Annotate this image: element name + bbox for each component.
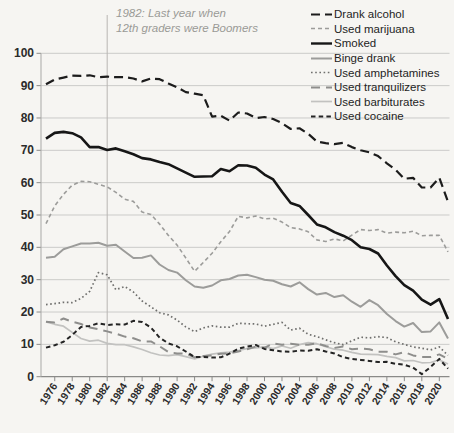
series-line-used_tranquilizers	[46, 319, 448, 359]
legend-item-used_marijuana: Used marijuana	[311, 22, 439, 37]
used_barbiturates-line-swatch-icon	[311, 96, 332, 107]
binge_drank-line-swatch-icon	[311, 53, 332, 64]
legend: Drank alcoholUsed marijuanaSmokedBinge d…	[311, 7, 439, 124]
x-axis-tick-label: 2016	[386, 380, 409, 406]
x-axis-tick-label: 2020	[421, 380, 444, 406]
y-axis-tick-label: 100	[14, 46, 34, 60]
x-axis-tick-label: 2018	[404, 380, 427, 406]
x-axis-tick-label: 1984	[107, 380, 130, 406]
used_tranquilizers-line-swatch-icon	[311, 82, 332, 93]
series-line-binge_drank	[46, 243, 448, 339]
used_marijuana-line-swatch-icon	[311, 23, 332, 34]
x-axis-tick-label: 1992	[177, 380, 200, 406]
series-line-smoked	[46, 132, 448, 319]
legend-label: Used tranquilizers	[334, 81, 426, 93]
used_cocaine-line-swatch-icon	[311, 111, 332, 122]
series-line-used_marijuana	[46, 181, 448, 271]
legend-item-smoked: Smoked	[311, 36, 439, 51]
x-axis-tick-label: 1988	[142, 380, 165, 406]
y-axis-tick-label: 10	[21, 337, 35, 351]
y-axis-tick-label: 70	[21, 143, 35, 157]
legend-label: Smoked	[334, 37, 376, 49]
x-axis-tick-label: 2008	[317, 380, 340, 406]
used_amphetamines-line-swatch-icon	[311, 67, 332, 78]
y-axis-tick-label: 40	[21, 240, 35, 254]
annotation-line-1: 1982: Last year when	[116, 6, 258, 21]
smoked-line-swatch-icon	[311, 38, 332, 49]
y-axis-tick-label: 20	[21, 305, 35, 319]
x-axis: 1976197819801982198419861988199019921994…	[37, 377, 444, 407]
y-axis-tick-label: 90	[21, 79, 35, 93]
x-axis-tick-label: 1982	[89, 380, 112, 406]
legend-item-used_barbiturates: Used barbiturates	[311, 95, 439, 110]
x-axis-tick-label: 1976	[37, 380, 60, 406]
x-axis-tick-label: 1998	[229, 380, 252, 406]
x-axis-tick-label: 2006	[299, 380, 322, 406]
y-axis-tick-label: 60	[21, 176, 35, 190]
legend-label: Used cocaine	[334, 110, 404, 122]
legend-item-used_cocaine: Used cocaine	[311, 109, 439, 124]
annotation-line-2: 12th graders were Boomers	[116, 21, 258, 36]
x-axis-tick-label: 1994	[194, 380, 217, 406]
x-axis-tick-label: 2004	[282, 380, 305, 406]
legend-label: Binge drank	[334, 52, 395, 64]
trend-chart: 0102030405060708090100197619781980198219…	[0, 0, 454, 433]
y-axis-tick-label: 0	[27, 370, 34, 384]
legend-label: Drank alcohol	[334, 8, 404, 20]
legend-item-used_tranquilizers: Used tranquilizers	[311, 80, 439, 95]
legend-label: Used amphetamines	[334, 67, 439, 79]
legend-label: Used marijuana	[334, 23, 415, 35]
y-axis-tick-label: 80	[21, 111, 35, 125]
x-axis-tick-label: 2002	[264, 380, 287, 406]
legend-item-used_amphetamines: Used amphetamines	[311, 65, 439, 80]
x-axis-tick-label: 1980	[72, 380, 95, 406]
drank_alcohol-line-swatch-icon	[311, 9, 332, 20]
x-axis-tick-label: 2014	[369, 380, 392, 406]
legend-item-drank_alcohol: Drank alcohol	[311, 7, 439, 22]
legend-label: Used barbiturates	[334, 96, 425, 108]
y-axis-tick-label: 50	[21, 208, 35, 222]
x-axis-tick-label: 1986	[124, 380, 147, 406]
x-axis-tick-label: 1978	[54, 380, 77, 406]
x-axis-tick-label: 1990	[159, 380, 182, 406]
x-axis-tick-label: 2000	[247, 380, 270, 406]
x-axis-tick-label: 1996	[212, 380, 235, 406]
y-axis-tick-label: 30	[21, 273, 35, 287]
annotation-1982: 1982: Last year when 12th graders were B…	[116, 6, 258, 36]
x-axis-tick-label: 2012	[352, 380, 375, 406]
legend-item-binge_drank: Binge drank	[311, 51, 439, 66]
series-line-used_barbiturates	[46, 322, 448, 364]
series-line-used_cocaine	[46, 321, 448, 374]
x-axis-tick-label: 2010	[334, 380, 357, 406]
